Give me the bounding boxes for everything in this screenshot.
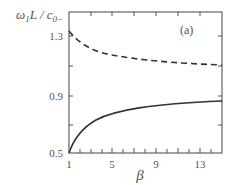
y-tick-0.5: 0.5 [49,147,63,159]
panel-label: (a) [180,23,193,37]
y-tick-1.3: 1.3 [49,30,63,42]
chart: 1 5 9 13 1.3 0.9 0.5 β ω1L / c0− (a) [0,0,237,185]
x-tick-13: 13 [195,158,207,170]
x-tick-9: 9 [153,158,159,170]
x-axis-label: β [135,167,144,183]
solid-curve [69,101,222,153]
y-ticks [69,36,222,125]
dashed-curve [69,31,222,65]
x-tick-1: 1 [66,158,72,170]
x-tick-5: 5 [109,158,115,170]
plot-frame [69,12,222,153]
y-tick-0.9: 0.9 [49,90,63,102]
y-axis-label: ω1L / c0− [16,7,63,24]
